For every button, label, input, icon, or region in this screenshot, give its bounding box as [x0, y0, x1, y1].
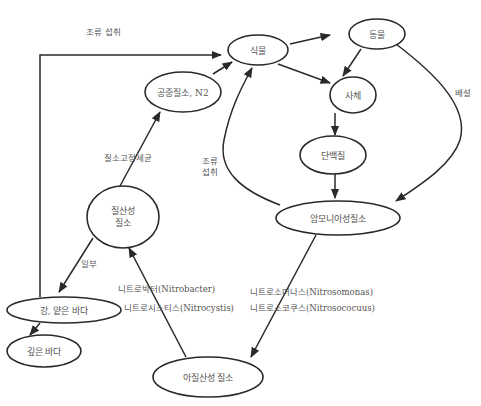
- node-nitrite-label: 아질산성 질소: [183, 372, 234, 383]
- node-atmospheric-nitrogen: 공중질소, N2: [145, 72, 221, 112]
- node-nitrate-label-line2: 질소: [115, 217, 131, 228]
- node-plants: 식물: [228, 35, 288, 65]
- nitrogen-cycle-diagram: 식물 동물 사체 단백질 암모니아성질소 공중질소, N2 질산성 질소 강, …: [0, 0, 481, 406]
- node-protein-label: 단백질: [321, 150, 345, 161]
- edge-plants-to-dead: [278, 64, 330, 83]
- node-ammonia-label: 암모니아성질소: [310, 213, 366, 224]
- label-algae-uptake-top: 조류 섭취: [86, 27, 121, 37]
- node-nitrate-label-line1: 질산성: [111, 205, 135, 216]
- node-dead: 사체: [330, 77, 376, 113]
- edge-plants-to-animals: [290, 35, 330, 44]
- node-river-label: 강, 얕은 바다: [40, 306, 90, 316]
- node-animals: 동물: [349, 19, 405, 49]
- node-deepsea-label: 깊은 바다: [27, 346, 63, 357]
- edge-atmospheric-to-plants: [213, 62, 232, 74]
- edge-ammonia-to-plants: [223, 68, 280, 205]
- node-nitrate-nitrogen: 질산성 질소: [87, 186, 159, 248]
- label-nitrobacter: 니트로박터(Nitrobacter): [118, 284, 215, 294]
- node-river-shallow-sea: 강, 얕은 바다: [7, 297, 121, 323]
- label-partial: 일부: [81, 259, 97, 269]
- label-excretion: 배설: [455, 88, 471, 98]
- label-nitrosomonas: 니트로소머나스(Nitrosomonas): [250, 287, 373, 297]
- node-atmospheric-label: 공중질소, N2: [157, 87, 208, 98]
- node-plants-label: 식물: [250, 46, 266, 56]
- label-nitrogen-fixing-bacteria: 질소고정세균: [104, 153, 152, 163]
- edge-animals-to-dead: [343, 49, 361, 76]
- node-dead-label: 사체: [345, 91, 361, 101]
- edge-animals-to-ammonia: [396, 44, 462, 201]
- node-animals-label: 동물: [369, 30, 385, 40]
- node-protein: 단백질: [300, 136, 366, 174]
- node-deep-sea: 깊은 바다: [7, 335, 81, 367]
- label-nitrocystis: 니트로시스티스(Nitrocystis): [124, 303, 234, 313]
- edge-river-to-deepsea: [30, 323, 40, 335]
- label-nitrosococcus: 니트로소코쿠스(Nitrosococuus): [250, 303, 375, 313]
- node-nitrite-nitrogen: 아질산성 질소: [153, 357, 263, 397]
- edge-nitrate-to-atmospheric: [120, 112, 160, 186]
- node-ammonia-nitrogen: 암모니아성질소: [276, 201, 400, 235]
- label-algae-uptake-left-2: 섭취: [202, 167, 218, 177]
- label-algae-uptake-left-1: 조류: [202, 156, 218, 166]
